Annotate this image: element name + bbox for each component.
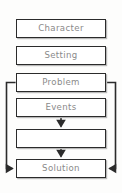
node-events[interactable]: Events	[16, 98, 106, 117]
node-problem[interactable]: Problem	[16, 73, 106, 92]
node-solution[interactable]: Solution	[16, 159, 106, 178]
node-solution-label: Solution	[42, 164, 80, 173]
node-blank[interactable]	[16, 129, 106, 148]
story-elements-flowchart: Character Setting Problem Events Solutio…	[0, 0, 122, 193]
node-problem-label: Problem	[42, 78, 80, 87]
node-character[interactable]: Character	[16, 19, 106, 38]
node-setting[interactable]: Setting	[16, 46, 106, 65]
node-character-label: Character	[38, 24, 84, 33]
connector-problem-right-loop	[106, 83, 115, 169]
node-setting-label: Setting	[44, 51, 77, 60]
connector-problem-left-loop	[7, 83, 16, 169]
node-events-label: Events	[45, 103, 76, 112]
